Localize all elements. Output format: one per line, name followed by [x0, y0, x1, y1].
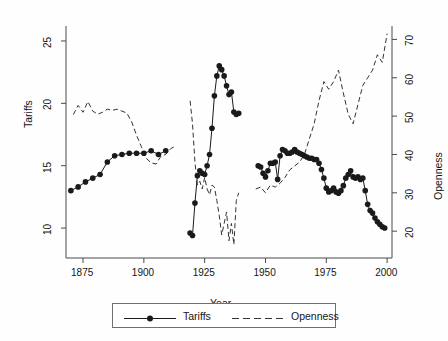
axis-tick-label: 25: [42, 37, 53, 48]
legend-label-openness: Openness: [291, 310, 339, 322]
y-axis-left-label: Tariffs: [22, 100, 34, 128]
axis-tick-label: 1950: [253, 267, 275, 278]
legend-item-tariffs: Tariffs: [123, 304, 211, 327]
chart-legend: Tariffs Openness: [112, 303, 336, 328]
dual-axis-line-chart: [0, 0, 448, 341]
axis-tick-label: 15: [42, 162, 53, 173]
axis-tick-label: 1900: [132, 267, 154, 278]
chart-background: [0, 0, 448, 341]
axis-tick-label: 10: [42, 224, 53, 235]
axis-tick-label: 1975: [314, 267, 336, 278]
axis-tick-label: 20: [42, 99, 53, 110]
axis-tick-label: 20: [404, 227, 415, 238]
axis-tick-label: 30: [404, 189, 415, 200]
axis-tick-label: 1925: [193, 267, 215, 278]
axis-tick-label: 60: [404, 74, 415, 85]
legend-item-openness: Openness: [231, 304, 339, 327]
axis-tick-label: 50: [404, 112, 415, 123]
axis-tick-label: 70: [404, 35, 415, 46]
legend-swatch-openness-icon: [231, 310, 285, 321]
y-axis-right-label: Openness: [432, 152, 444, 200]
legend-swatch-tariffs-icon: [123, 310, 177, 321]
axis-tick-label: 2000: [375, 267, 397, 278]
axis-tick-label: 1875: [71, 267, 93, 278]
axis-tick-label: 40: [404, 150, 415, 161]
legend-label-tariffs: Tariffs: [183, 310, 211, 322]
chart-figure-root: Tariffs Openness Year 187519001925195019…: [0, 0, 448, 341]
